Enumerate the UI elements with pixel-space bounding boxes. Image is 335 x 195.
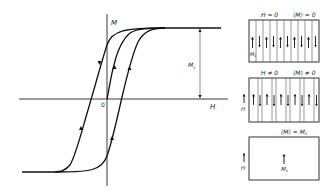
panel3-h-label: H — [241, 165, 245, 171]
dim-arrow-top-icon — [198, 29, 201, 33]
domain-panel-zero-field: H = 0 ⟨M⟩ = 0 Ms — [249, 11, 319, 62]
domain-panel-applied-field: H ≠ 0 ⟨M⟩ ≠ 0 H — [241, 69, 319, 122]
hysteresis-figure: M H 0 Ms H = 0 ⟨M⟩ = 0 — [0, 0, 335, 195]
panel3-condition: ⟨M⟩ = Ms — [281, 128, 307, 136]
arrow-ascending-lower-icon — [110, 136, 114, 140]
panel2-condition-h: H ≠ 0 — [261, 69, 278, 76]
m-axis-label: M — [111, 19, 117, 27]
saturation-label: Ms — [188, 61, 195, 70]
origin-label: 0 — [101, 101, 105, 108]
panel2-box — [249, 78, 319, 122]
panel1-condition-h: H = 0 — [261, 11, 278, 18]
domain-panel-saturated: ⟨M⟩ = Ms H Ms — [241, 128, 319, 180]
h-axis-label: H — [210, 103, 216, 111]
panel1-condition-m: ⟨M⟩ = 0 — [293, 11, 316, 18]
hysteresis-plot: M H 0 Ms — [19, 14, 228, 186]
initial-magnetization-curve — [107, 28, 165, 99]
panel2-condition-m: ⟨M⟩ ≠ 0 — [293, 69, 316, 76]
dim-arrow-bottom-icon — [198, 95, 201, 99]
panel2-h-label: H — [241, 106, 245, 112]
descending-branch — [55, 28, 165, 172]
arrow-ascending-upper-icon — [128, 66, 132, 70]
